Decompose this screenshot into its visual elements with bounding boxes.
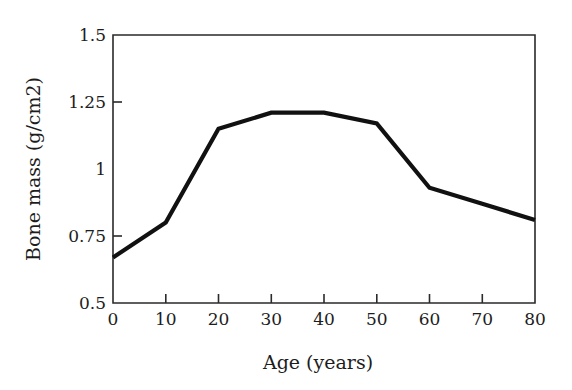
x-tick-label-30: 30: [260, 309, 282, 329]
bone-mass-line-chart: 1.5 1.25 1 0.75 0.5 0 10 20 30 40 50 60 …: [0, 0, 572, 390]
y-tick-label-1-25: 1.25: [68, 92, 106, 112]
x-tick-label-60: 60: [419, 309, 441, 329]
x-tick-label-40: 40: [313, 309, 335, 329]
x-tick-label-50: 50: [366, 309, 388, 329]
x-axis-title: Age (years): [262, 351, 373, 373]
x-tick-label-20: 20: [208, 309, 230, 329]
y-tick-label-1: 1: [95, 159, 106, 179]
x-tick-label-0: 0: [108, 309, 119, 329]
x-axis-tick-labels: 0 10 20 30 40 50 60 70 80: [108, 309, 546, 329]
chart-canvas: 1.5 1.25 1 0.75 0.5 0 10 20 30 40 50 60 …: [0, 0, 572, 390]
y-tick-label-0-5: 0.5: [79, 293, 106, 313]
y-axis-title: Bone mass (g/cm2): [22, 77, 44, 261]
y-tick-label-0-75: 0.75: [68, 226, 106, 246]
x-tick-label-70: 70: [471, 309, 493, 329]
x-tick-label-80: 80: [524, 309, 546, 329]
y-tick-label-1-5: 1.5: [79, 25, 106, 45]
chart-background: [0, 0, 572, 390]
x-tick-label-10: 10: [155, 309, 177, 329]
